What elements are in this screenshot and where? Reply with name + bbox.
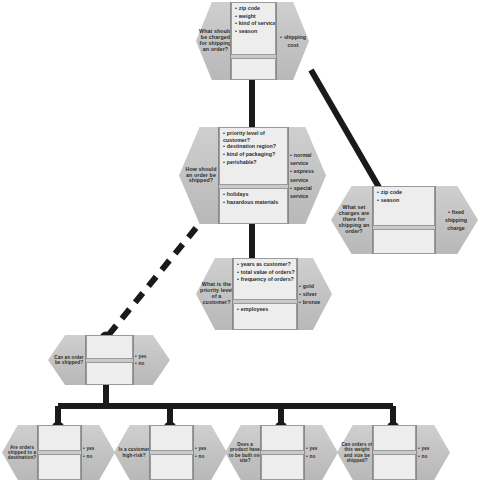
input-list-bottom: employees [237,306,293,314]
node-question-how-shipped: How should an order be shipped? [181,127,221,224]
input-item: perishable? [223,159,284,167]
node-inputs-top [38,425,81,451]
node-center-column [37,425,82,480]
node-inputs-top: years as customer? total value of orders… [233,258,297,300]
node-question-weight-and-size: Can orders of this weight and size be sh… [339,425,375,480]
decision-node-set-charges[interactable]: What set charges are there for shipping … [331,186,478,254]
node-inputs-top: zip code season [373,186,435,226]
decision-node-shipping-charge[interactable]: What should be charged for shipping an o… [196,2,309,80]
output-item: yes [135,353,161,360]
node-inputs-bottom [150,454,193,480]
node-center-column [149,425,194,480]
node-inputs-bottom: holidays hazardous materials [219,188,288,224]
decision-node-orders-to-destination[interactable]: Are orders shipped to a destination? yes… [2,425,115,480]
node-inputs-bottom [373,229,435,254]
node-inputs-top [261,425,304,451]
input-item: holidays [223,191,284,199]
input-item: kind of service [235,20,272,28]
input-list-top: zip code season [377,189,431,204]
decision-node-customer-high-risk[interactable]: Is a customer high-risk? yes no [114,425,227,480]
output-item: no [135,360,161,367]
input-item: hazardous materials [223,199,284,206]
node-inputs-top [86,335,133,359]
node-outputs-shipping-charge: shipping cost [278,2,308,80]
node-inputs-bottom [373,454,416,480]
output-item: fixed shipping charge [437,208,475,233]
output-item: yes [418,445,443,452]
node-inputs-top [150,425,193,451]
node-center-column: years as customer? total value of orders… [232,258,298,330]
output-item: shipping cost [278,33,308,49]
node-outputs-built-on-site: yes no [306,425,331,480]
node-inputs-top [373,425,416,451]
node-center-column [260,425,305,480]
output-item: yes [195,445,220,452]
node-inputs-bottom [38,454,81,480]
input-list-top: priority level of customer? destination … [223,130,284,166]
input-list-top: zip code weight kind of service season [235,5,272,36]
node-question-set-charges: What set charges are there for shipping … [333,186,375,254]
output-item: no [418,453,443,460]
input-item: zip code [235,5,272,13]
input-item: employees [237,306,293,314]
node-question-built-on-site: Does a product have to be built on-site? [227,425,263,480]
input-item: zip code [377,189,431,197]
input-item: total value of orders? [237,269,293,277]
node-outputs-priority-level: gold silver bronze [299,258,329,330]
input-item: years as customer? [237,261,293,269]
node-center-column: zip code season [372,186,436,254]
node-question-orders-to-destination: Are orders shipped to a destination? [4,425,40,480]
decision-node-priority-level[interactable]: What is the priority level of a customer… [196,258,332,330]
node-outputs-set-charges: fixed shipping charge [437,186,475,254]
node-inputs-top: priority level of customer? destination … [219,127,288,185]
input-list-top: years as customer? total value of orders… [237,261,293,284]
node-outputs-customer-high-risk: yes no [195,425,220,480]
node-outputs-how-shipped: normal service express service special s… [290,127,324,224]
output-item: silver [299,290,329,298]
node-inputs-bottom [86,362,133,386]
decision-node-how-shipped[interactable]: How should an order be shipped? priority… [179,127,326,224]
node-outputs-weight-and-size: yes no [418,425,443,480]
output-item: no [83,453,108,460]
output-item: normal service [290,151,324,167]
output-item: yes [83,445,108,452]
output-item: bronze [299,298,329,306]
node-center-column [85,335,134,385]
decision-node-built-on-site[interactable]: Does a product have to be built on-site?… [225,425,338,480]
input-item: weight [235,13,272,21]
input-item: destination region? [223,143,284,151]
input-list-bottom: holidays hazardous materials [223,191,284,205]
node-question-shipping-charge: What should be charged for shipping an o… [198,2,233,80]
diagram-canvas: What should be charged for shipping an o… [0,0,482,492]
decision-node-can-order-be-shipped[interactable]: Can an order be shipped? yes no [48,335,170,385]
node-inputs-bottom [231,58,276,80]
output-item: yes [306,445,331,452]
node-inputs-bottom [261,454,304,480]
node-question-can-order-be-shipped: Can an order be shipped? [50,335,88,385]
input-item: season [377,197,431,205]
input-item: frequency of orders? [237,276,293,284]
node-inputs-top: zip code weight kind of service season [231,2,276,55]
input-item: kind of packaging? [223,151,284,159]
node-outputs-orders-to-destination: yes no [83,425,108,480]
node-outputs-can-order-be-shipped: yes no [135,335,161,385]
output-item: gold [299,282,329,290]
node-center-column: priority level of customer? destination … [218,127,289,224]
node-question-customer-high-risk: Is a customer high-risk? [116,425,152,480]
decision-node-weight-and-size[interactable]: Can orders of this weight and size be sh… [337,425,450,480]
input-item: priority level of customer? [223,130,284,143]
connector-how-shipped-to-can-order-be-shipped [106,228,196,338]
output-item: no [306,453,331,460]
output-item: special service [290,184,324,200]
node-question-priority-level: What is the priority level of a customer… [198,258,235,330]
node-center-column [372,425,417,480]
output-item: no [195,453,220,460]
node-inputs-bottom: employees [233,303,297,330]
output-item: express service [290,167,324,183]
node-center-column: zip code weight kind of service season [230,2,277,80]
input-item: season [235,28,272,36]
